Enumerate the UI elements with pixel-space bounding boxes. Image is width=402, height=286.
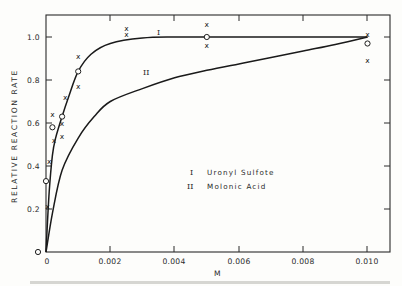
- x-tick-label: 0.010: [355, 257, 378, 266]
- y-tick-label: 0.6: [27, 119, 40, 128]
- circle-marker: [50, 125, 55, 130]
- cross-marker: x: [205, 20, 210, 29]
- x-tick-label: 0.002: [98, 257, 121, 266]
- cross-marker: x: [124, 30, 129, 39]
- cross-marker: x: [365, 30, 370, 39]
- x-axis-ticks: [110, 15, 367, 252]
- legend-label-malonic-acid: Molonic Acid: [207, 182, 266, 191]
- x-tick-label: 0.006: [227, 257, 250, 266]
- cross-marker: x: [45, 202, 50, 211]
- circle-marker: [35, 249, 40, 254]
- circle-marker: [43, 179, 48, 184]
- cross-marker: x: [60, 132, 65, 141]
- cross-marker: x: [52, 136, 57, 145]
- cross-marker: x: [365, 56, 370, 65]
- x-tick-label: 0: [44, 257, 49, 266]
- y-tick-label: 0.2: [27, 205, 40, 214]
- plot-frame: [46, 15, 390, 252]
- cross-marker: x: [63, 93, 68, 102]
- x-tick-label: 0.008: [291, 257, 314, 266]
- legend-key-I: I: [190, 168, 193, 177]
- curve-I-label: I: [157, 28, 160, 37]
- x-tick-label: 0.004: [162, 257, 185, 266]
- curve-uranyl-sulfate: [46, 37, 368, 252]
- y-tick-label: 1.0: [27, 33, 40, 42]
- cross-marker: x: [60, 119, 65, 128]
- reaction-rate-chart: 0 0.002 0.004 0.006 0.008 0.010 1.0 0.8 …: [0, 0, 402, 286]
- curve-II-label: II: [143, 68, 149, 77]
- circle-marker: [76, 69, 81, 74]
- data-markers: xxxxxxxxxxxxxxx: [35, 20, 370, 255]
- cross-marker: x: [76, 52, 81, 61]
- legend-key-II: II: [187, 182, 193, 191]
- circle-marker: [204, 34, 209, 39]
- cross-marker: x: [47, 157, 52, 166]
- y-tick-labels: 1.0 0.8 0.6 0.4 0.2: [27, 33, 40, 214]
- y-tick-label: 0.4: [27, 162, 40, 171]
- figure-caption-fragment: [30, 281, 390, 284]
- x-axis-title: M: [214, 269, 222, 278]
- cross-marker: x: [76, 82, 81, 91]
- cross-marker: x: [205, 41, 210, 50]
- circle-marker: [365, 41, 370, 46]
- cross-marker: x: [50, 110, 55, 119]
- y-tick-label: 0.8: [27, 76, 40, 85]
- y-axis-title: RELATIVE REACTION RATE: [10, 69, 19, 203]
- legend-label-uranyl-sulfate: Uronyl Sulfote: [207, 168, 275, 177]
- curve-malonic-acid: [46, 37, 368, 252]
- legend: I Uronyl Sulfote II Molonic Acid: [187, 168, 275, 191]
- x-tick-labels: 0 0.002 0.004 0.006 0.008 0.010: [44, 257, 378, 266]
